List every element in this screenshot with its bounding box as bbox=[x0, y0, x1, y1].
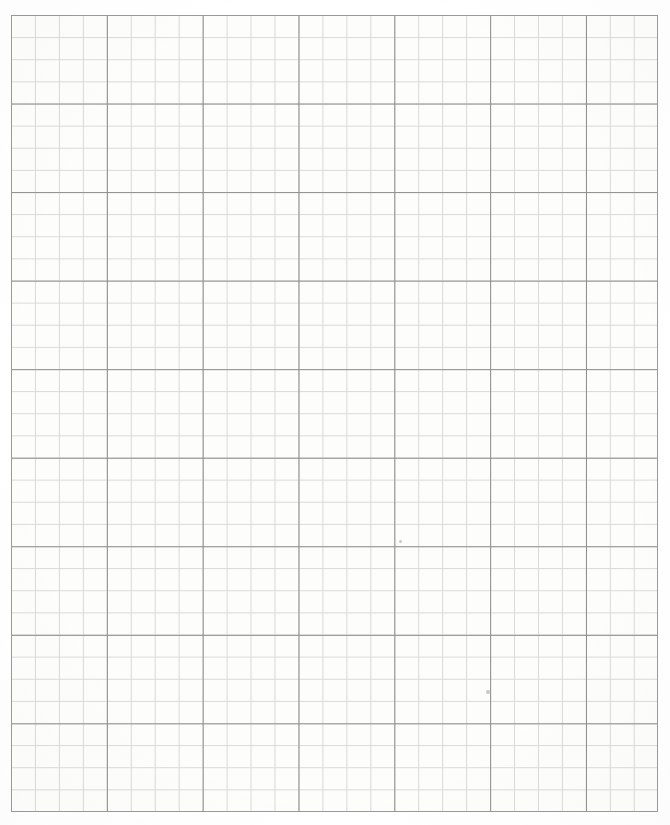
graph-paper-grid bbox=[11, 15, 658, 812]
page-canvas bbox=[0, 0, 670, 825]
pencil-dot-2 bbox=[486, 690, 490, 694]
pencil-dot-1 bbox=[399, 540, 402, 543]
